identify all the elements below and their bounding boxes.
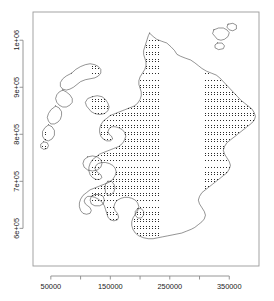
y-tick-label: 1e+06 (12, 30, 21, 51)
x-tick-label: 350000 (217, 282, 242, 291)
y-tick-label: 9e+05 (12, 77, 21, 98)
scatter-plot-root: 50000150000250000350000 6e+057e+058e+059… (0, 0, 274, 301)
y-tick-label: 6e+05 (12, 218, 21, 239)
x-tick-label: 250000 (157, 282, 182, 291)
x-tick-label: 50000 (41, 282, 62, 291)
y-tick-label: 8e+05 (12, 124, 21, 145)
x-tick-label: 150000 (98, 282, 123, 291)
plot-background (0, 0, 274, 301)
scotland-grid-map: 50000150000250000350000 6e+057e+058e+059… (0, 0, 274, 301)
y-tick-label: 7e+05 (12, 171, 21, 192)
